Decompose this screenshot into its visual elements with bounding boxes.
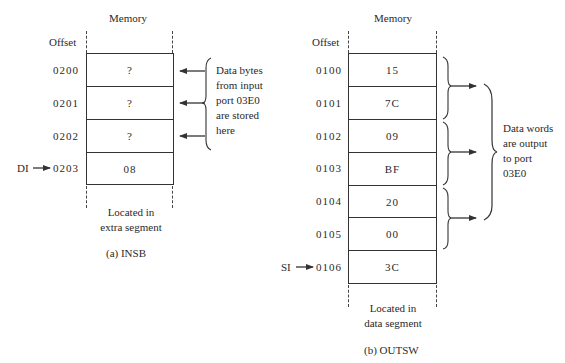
output-arrows-b xyxy=(452,86,476,218)
large-curly-brace-icon xyxy=(484,84,497,220)
word-braces-b xyxy=(443,57,452,249)
curly-brace-icon xyxy=(443,122,452,185)
curly-brace-icon xyxy=(443,188,452,249)
input-arrows-a xyxy=(180,71,205,136)
connectors-overlay xyxy=(0,0,565,363)
curly-brace-icon xyxy=(443,57,452,119)
